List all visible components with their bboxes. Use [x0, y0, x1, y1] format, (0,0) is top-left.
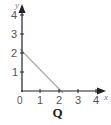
x-axis-label: x [104, 93, 108, 102]
x-tick-label: 1 [37, 95, 43, 106]
x-tick-label: 4 [93, 95, 99, 106]
y-axis-arrow-icon [19, 4, 26, 13]
chart-caption: Q [0, 106, 111, 119]
chart-figure: y x 4 3 2 1 0 1 2 3 4 Q [0, 0, 111, 125]
y-tick-label: 3 [11, 29, 17, 40]
y-tick-label: 4 [11, 10, 17, 21]
x-tick-label: 3 [75, 95, 81, 106]
y-tick-label: 2 [11, 48, 17, 59]
y-tick-label: 1 [12, 67, 18, 78]
x-tick-label: 0 [17, 95, 23, 106]
data-line [20, 49, 63, 93]
